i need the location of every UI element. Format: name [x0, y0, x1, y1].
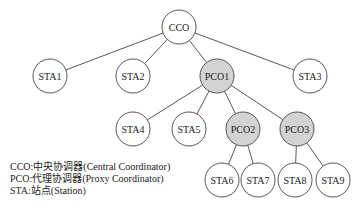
edge-cco-sta1 — [66, 33, 163, 70]
tree-edges — [66, 33, 323, 166]
edge-pco2-sta6 — [228, 145, 236, 165]
edge-pco3-sta8 — [296, 146, 297, 163]
node-sta7: STA7 — [241, 163, 275, 197]
node-label: STA8 — [283, 175, 306, 186]
node-sta6: STA6 — [205, 163, 239, 197]
edge-cco-pco1 — [189, 40, 206, 62]
node-pco2: PCO2 — [226, 112, 260, 146]
legend-item-cco: CCO:中央协调器(Central Coordinator) — [10, 161, 170, 173]
node-sta3: STA3 — [293, 59, 327, 93]
edge-pco3-sta9 — [307, 143, 323, 166]
legend-item-sta: STA:站点(Station) — [10, 185, 170, 197]
node-label: CCO — [169, 22, 190, 33]
edge-pco1-pco2 — [224, 91, 235, 113]
edge-cco-sta2 — [145, 39, 168, 63]
node-label: PCO3 — [285, 124, 309, 135]
node-label: PCO2 — [231, 124, 255, 135]
node-label: STA1 — [38, 71, 61, 82]
edge-pco1-sta5 — [197, 91, 209, 114]
node-sta5: STA5 — [172, 112, 206, 146]
node-sta9: STA9 — [316, 163, 350, 197]
edge-pco2-sta7 — [248, 145, 253, 163]
node-pco1: PCO1 — [200, 59, 234, 93]
node-sta2: STA2 — [116, 59, 150, 93]
node-pco3: PCO3 — [280, 112, 314, 146]
node-label: STA4 — [121, 124, 144, 135]
node-label: STA2 — [121, 71, 144, 82]
node-label: STA6 — [210, 175, 233, 186]
node-label: STA5 — [177, 124, 200, 135]
node-label: STA9 — [321, 175, 344, 186]
node-label: STA3 — [298, 71, 321, 82]
node-label: STA7 — [246, 175, 269, 186]
node-label: PCO1 — [205, 71, 229, 82]
node-sta4: STA4 — [116, 112, 150, 146]
node-cco: CCO — [162, 10, 196, 44]
legend: CCO:中央协调器(Central Coordinator) PCO:代理协调器… — [10, 161, 170, 197]
node-sta1: STA1 — [33, 59, 67, 93]
legend-item-pco: PCO:代理协调器(Proxy Coordinator) — [10, 173, 170, 185]
node-sta8: STA8 — [278, 163, 312, 197]
